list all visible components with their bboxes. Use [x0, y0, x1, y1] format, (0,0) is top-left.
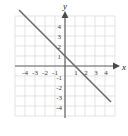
x-tick-label: 1	[74, 69, 78, 77]
y-tick-label: -2	[56, 84, 62, 92]
x-tick-label: 4	[104, 69, 108, 77]
x-tick-label: -2	[42, 69, 48, 77]
y-tick-label: 4	[58, 23, 62, 31]
y-axis	[62, 11, 69, 118]
x-axis-label: x	[121, 62, 126, 72]
y-tick-label: 2	[58, 43, 62, 51]
x-tick-label: -3	[32, 69, 38, 77]
y-tick-label: -4	[56, 104, 62, 112]
x-tick-label: 3	[94, 69, 98, 77]
coordinate-plane-svg: -4 -3 -2 -1 1 2 3 4 4 3 2 1 -1 -2 -3 -4 …	[0, 0, 128, 136]
arrow-up-icon	[62, 11, 69, 18]
arrow-right-icon	[113, 63, 120, 70]
y-tick-label: 3	[58, 33, 62, 41]
y-axis-label: y	[62, 1, 67, 11]
y-tick-label: -3	[56, 94, 62, 102]
x-tick-label: -4	[22, 69, 28, 77]
x-tick-label: 2	[84, 69, 88, 77]
y-tick-label: 1	[58, 53, 62, 61]
line-graph-figure: -4 -3 -2 -1 1 2 3 4 4 3 2 1 -1 -2 -3 -4 …	[0, 0, 128, 136]
y-tick-label: -1	[56, 74, 62, 82]
